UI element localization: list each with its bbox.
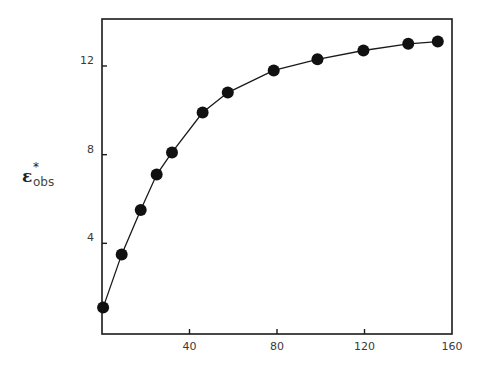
x-tick-label: 160	[442, 340, 463, 353]
plot-area: 40801201604812	[0, 0, 479, 366]
data-point	[116, 248, 128, 260]
data-markers	[97, 36, 444, 314]
y-axis-label-superscript: *	[33, 160, 39, 174]
y-tick-label: 12	[80, 54, 94, 67]
y-tick-label: 4	[87, 231, 94, 244]
data-point	[135, 204, 147, 216]
x-tick-label: 80	[270, 340, 284, 353]
axis-tick-labels: 40801201604812	[80, 54, 463, 353]
x-tick-label: 120	[354, 340, 375, 353]
data-point	[166, 146, 178, 158]
data-point	[268, 64, 280, 76]
data-point	[402, 38, 414, 50]
data-point	[197, 107, 209, 119]
y-axis-label-subscript: obs	[33, 175, 54, 189]
data-point	[151, 169, 163, 181]
y-tick-label: 8	[87, 143, 94, 156]
x-tick-label: 40	[183, 340, 197, 353]
data-point	[357, 44, 369, 56]
axis-ticks	[102, 66, 365, 334]
data-point	[432, 36, 444, 48]
y-axis-label-symbol: ε	[22, 166, 32, 186]
y-axis-label: ε * obs	[22, 166, 32, 186]
data-point	[222, 87, 234, 99]
data-point	[311, 53, 323, 65]
data-point	[97, 302, 109, 314]
